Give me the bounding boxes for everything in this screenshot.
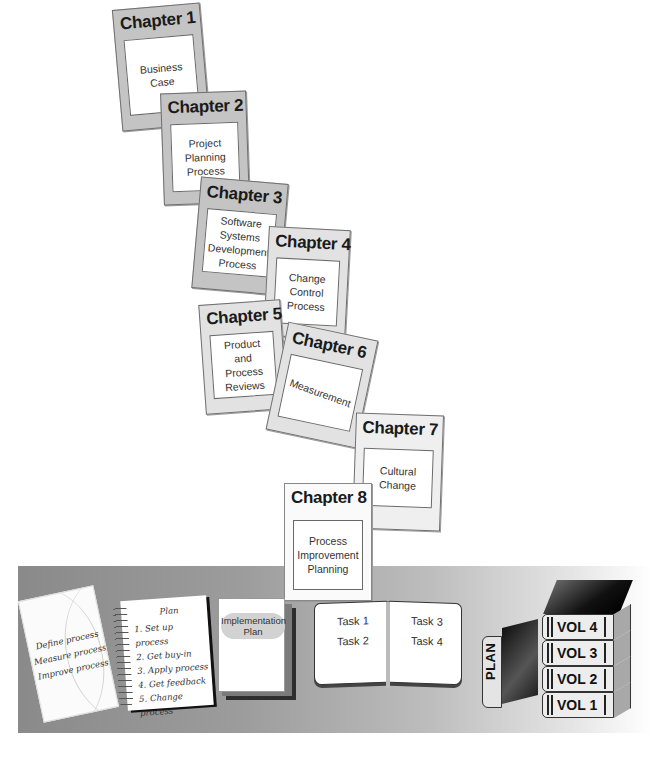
chapter-title: Chapter 5: [206, 304, 283, 329]
chapter-card-8: Chapter 8 Process Improvement Planning: [284, 483, 372, 601]
book-cover-top: [543, 580, 633, 614]
implementation-plan-document: Implementation Plan: [218, 598, 285, 692]
binder-left-page: Task 1 Task 2: [314, 601, 388, 686]
volume-book-3: VOL 3: [542, 640, 614, 666]
chapter-body: Change Control Process: [286, 270, 326, 314]
binder-rings-icon: [386, 602, 390, 688]
book-cover: [502, 619, 538, 704]
task-item: Task 1: [337, 614, 369, 627]
implementation-plan-label: Implementation Plan: [221, 613, 285, 639]
chapter-title: Chapter 4: [275, 231, 352, 255]
chapter-body: Product and Process Reviews: [222, 336, 265, 395]
chapter-title: Chapter 2: [167, 96, 243, 119]
volume-book-4: VOL 4: [542, 614, 614, 640]
binder-right-page: Task 3 Task 4: [388, 601, 462, 686]
task-binder: Task 1 Task 2 Task 3 Task 4: [314, 602, 462, 690]
volume-book-2: VOL 2: [542, 666, 614, 692]
plan-book-label: PLAN: [483, 643, 498, 680]
plan-notebook: Plan 1. Set up process 2. Get buy-in 3. …: [120, 595, 213, 711]
task-item: Task 2: [337, 634, 369, 647]
volume-label: VOL 4: [557, 619, 597, 635]
volume-label: VOL 3: [557, 645, 597, 661]
chapter-body: Project Planning Process: [184, 135, 226, 178]
task-item: Task 3: [411, 615, 443, 628]
volume-stack: VOL 4 VOL 3 VOL 2 VOL 1: [542, 580, 632, 720]
chapter-title: Chapter 1: [119, 8, 196, 35]
volume-book-1: VOL 1: [542, 692, 614, 718]
chapter-title: Chapter 3: [206, 182, 283, 209]
chapter-body: Business Case: [139, 59, 184, 91]
chapter-title: Chapter 8: [291, 488, 367, 508]
chapter-body: Measurement: [288, 375, 353, 410]
plan-book: PLAN: [482, 628, 540, 708]
chapter-body: Process Improvement Planning: [297, 534, 358, 576]
volume-label: VOL 2: [557, 671, 597, 687]
chapter-body: Software Systems Development Process: [206, 212, 273, 273]
chapter-title: Chapter 7: [362, 418, 438, 441]
chapter-body: Cultural Change: [379, 463, 417, 492]
notebook-item: 5. Change process: [139, 687, 213, 720]
volume-label: VOL 1: [557, 697, 597, 713]
task-item: Task 4: [411, 635, 443, 648]
